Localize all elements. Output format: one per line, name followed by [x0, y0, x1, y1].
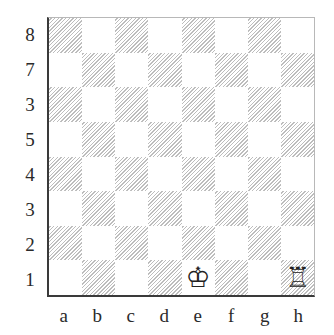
square-e3[interactable]: [182, 191, 215, 226]
square-h4[interactable]: [281, 157, 314, 192]
square-g6[interactable]: [248, 87, 281, 122]
square-f4[interactable]: [215, 157, 248, 192]
square-d5[interactable]: [148, 122, 181, 157]
file-label: c: [114, 302, 148, 330]
square-d7[interactable]: [148, 53, 181, 88]
square-d6[interactable]: [148, 87, 181, 122]
square-c1[interactable]: [115, 260, 148, 295]
square-b1[interactable]: [82, 260, 115, 295]
file-label: d: [148, 302, 182, 330]
square-a4[interactable]: [49, 157, 82, 192]
rank-label: 3: [18, 192, 42, 227]
square-b2[interactable]: [82, 226, 115, 261]
square-d1[interactable]: [148, 260, 181, 295]
square-b5[interactable]: [82, 122, 115, 157]
file-labels: a b c d e f g h: [47, 302, 315, 330]
chess-board: ♔♖: [47, 17, 315, 297]
square-b8[interactable]: [82, 18, 115, 53]
square-a3[interactable]: [49, 191, 82, 226]
square-f7[interactable]: [215, 53, 248, 88]
square-a6[interactable]: [49, 87, 82, 122]
square-d3[interactable]: [148, 191, 181, 226]
square-c2[interactable]: [115, 226, 148, 261]
rank-label: 8: [18, 17, 42, 52]
rank-label: 5: [18, 122, 42, 157]
square-d2[interactable]: [148, 226, 181, 261]
square-b7[interactable]: [82, 53, 115, 88]
square-g4[interactable]: [248, 157, 281, 192]
square-f8[interactable]: [215, 18, 248, 53]
square-e4[interactable]: [182, 157, 215, 192]
square-a5[interactable]: [49, 122, 82, 157]
file-label: h: [282, 302, 316, 330]
square-g7[interactable]: [248, 53, 281, 88]
square-d4[interactable]: [148, 157, 181, 192]
rank-label: 2: [18, 227, 42, 262]
square-h3[interactable]: [281, 191, 314, 226]
square-a8[interactable]: [49, 18, 82, 53]
square-e6[interactable]: [182, 87, 215, 122]
rank-label: 1: [18, 262, 42, 297]
file-label: e: [181, 302, 215, 330]
square-a7[interactable]: [49, 53, 82, 88]
square-g2[interactable]: [248, 226, 281, 261]
square-c8[interactable]: [115, 18, 148, 53]
file-label: f: [215, 302, 249, 330]
square-f5[interactable]: [215, 122, 248, 157]
square-g3[interactable]: [248, 191, 281, 226]
square-h1[interactable]: ♖: [281, 260, 314, 295]
square-f6[interactable]: [215, 87, 248, 122]
square-a1[interactable]: [49, 260, 82, 295]
square-c3[interactable]: [115, 191, 148, 226]
square-h6[interactable]: [281, 87, 314, 122]
square-h8[interactable]: [281, 18, 314, 53]
file-label: a: [47, 302, 81, 330]
square-h5[interactable]: [281, 122, 314, 157]
square-a2[interactable]: [49, 226, 82, 261]
file-label: g: [248, 302, 282, 330]
rank-label: 7: [18, 52, 42, 87]
square-g1[interactable]: [248, 260, 281, 295]
square-h2[interactable]: [281, 226, 314, 261]
square-c6[interactable]: [115, 87, 148, 122]
square-f2[interactable]: [215, 226, 248, 261]
white-rook-icon[interactable]: ♖: [281, 260, 314, 295]
square-c7[interactable]: [115, 53, 148, 88]
square-g5[interactable]: [248, 122, 281, 157]
square-h7[interactable]: [281, 53, 314, 88]
square-b6[interactable]: [82, 87, 115, 122]
square-b4[interactable]: [82, 157, 115, 192]
white-king-icon[interactable]: ♔: [182, 260, 215, 295]
file-label: b: [81, 302, 115, 330]
square-g8[interactable]: [248, 18, 281, 53]
rank-label: 3: [18, 87, 42, 122]
square-f3[interactable]: [215, 191, 248, 226]
square-e8[interactable]: [182, 18, 215, 53]
rank-label: 4: [18, 157, 42, 192]
square-e2[interactable]: [182, 226, 215, 261]
square-c4[interactable]: [115, 157, 148, 192]
square-d8[interactable]: [148, 18, 181, 53]
square-b3[interactable]: [82, 191, 115, 226]
square-f1[interactable]: [215, 260, 248, 295]
rank-labels: 8 7 3 5 4 3 2 1: [18, 17, 42, 297]
square-c5[interactable]: [115, 122, 148, 157]
square-e7[interactable]: [182, 53, 215, 88]
square-e5[interactable]: [182, 122, 215, 157]
square-e1[interactable]: ♔: [182, 260, 215, 295]
